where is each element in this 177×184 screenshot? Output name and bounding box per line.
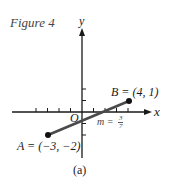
point-a-label: A = (−3, −2) (17, 139, 80, 154)
y-axis-label: y (79, 14, 84, 29)
x-axis-label: x (154, 104, 160, 120)
slope-denominator: 7 (119, 123, 123, 130)
figure-caption: (a) (73, 163, 86, 178)
point-a (45, 132, 51, 138)
point-b-label: B = (4, 1) (111, 85, 158, 100)
origin-label: O (70, 111, 79, 126)
slope-fraction: 3 7 (118, 115, 124, 130)
slope-prefix: m = (97, 116, 113, 127)
y-axis-arrow-icon (79, 28, 85, 36)
x-axis-arrow-icon (144, 109, 152, 115)
slope-label: m = 3 7 (97, 115, 123, 130)
